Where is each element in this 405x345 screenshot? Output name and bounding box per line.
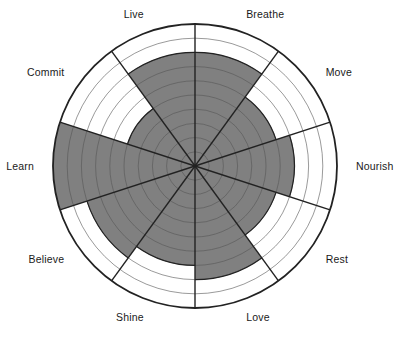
axis-label-commit: Commit: [27, 66, 64, 78]
axis-label-shine: Shine: [116, 311, 144, 323]
axis-label-breathe: Breathe: [246, 8, 284, 20]
axis-label-rest: Rest: [326, 253, 348, 265]
wheel-svg: BreatheMoveNourishRestLoveShineBelieveLe…: [0, 0, 405, 345]
axis-label-believe: Believe: [29, 253, 65, 265]
axis-label-nourish: Nourish: [356, 160, 394, 172]
axis-label-move: Move: [326, 66, 352, 78]
wellness-wheel-chart: BreatheMoveNourishRestLoveShineBelieveLe…: [0, 0, 405, 345]
axis-label-live: Live: [124, 8, 144, 20]
axis-label-learn: Learn: [6, 160, 34, 172]
axis-label-love: Love: [246, 311, 270, 323]
